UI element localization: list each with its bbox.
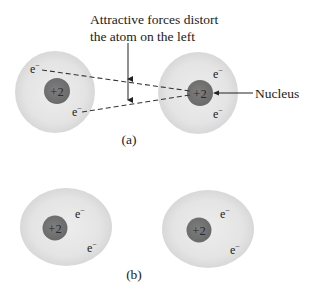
annotation-line-1: Attractive forces distort [90, 12, 218, 27]
annotation-line-2: the atom on the left [90, 29, 195, 44]
panel-a: Attractive forces distort the atom on th… [15, 12, 299, 147]
nucleus-charge: +2 [193, 87, 206, 101]
caption-a: (a) [122, 132, 137, 147]
atom-b-left: +2 e− e− [20, 188, 112, 266]
panel-b: +2 e− e− +2 e− e− (b) [20, 188, 254, 282]
nucleus-charge: +2 [50, 85, 63, 99]
diagram-canvas: Attractive forces distort the atom on th… [0, 0, 310, 301]
caption-b: (b) [126, 267, 142, 282]
atom-b-right: +2 e− e− [162, 190, 254, 268]
nucleus-charge: +2 [48, 222, 61, 236]
nucleus-charge: +2 [192, 224, 205, 238]
atom-a-left: +2 e− e− [15, 51, 95, 133]
nucleus-label: Nucleus [255, 86, 299, 101]
